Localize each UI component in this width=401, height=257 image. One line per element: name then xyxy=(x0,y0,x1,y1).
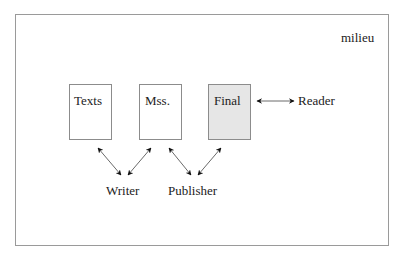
arrow-texts-writer xyxy=(98,148,121,175)
arrows-layer xyxy=(0,0,401,257)
arrow-final-publisher xyxy=(198,148,221,175)
arrow-mss-writer xyxy=(128,148,151,175)
arrow-mss-publisher xyxy=(169,148,191,175)
